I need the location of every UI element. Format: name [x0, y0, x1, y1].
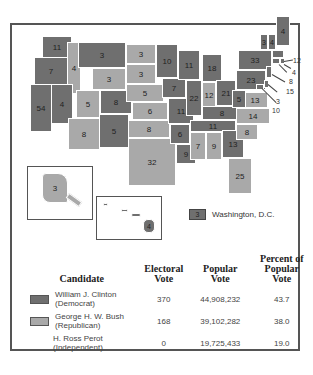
hawaii-island-maui — [131, 213, 141, 217]
callout-line-ri — [284, 64, 291, 69]
callout-line-nj — [272, 74, 285, 82]
hawaii-island-oahu — [121, 209, 128, 212]
table-row: George H. W. Bush(Republican) 168 39,102… — [26, 310, 313, 332]
state-ak: 3 — [42, 173, 68, 203]
dc-legend: 3 Washington, D.C. — [189, 209, 274, 220]
callout-ct: 8 — [289, 78, 293, 85]
electoral-cell: 370 — [138, 288, 190, 310]
state-ca: 54 — [30, 84, 52, 132]
callout-md: 10 — [272, 107, 280, 114]
popular-cell: 39,102,282 — [190, 310, 251, 332]
alaska-inset: 3 — [27, 166, 93, 220]
hawaii-island-kauai — [103, 203, 108, 206]
percent-cell: 38.0 — [251, 310, 313, 332]
table-row: William J. Clinton(Democrat) 370 44,908,… — [26, 288, 313, 310]
republican-swatch — [30, 317, 49, 326]
electoral-cell: 168 — [138, 310, 190, 332]
state-nh: 4 — [268, 34, 276, 50]
state-nm: 5 — [99, 114, 129, 148]
state-fl: 25 — [228, 158, 252, 194]
callout-line-ma — [284, 59, 293, 62]
state-al: 9 — [206, 132, 222, 160]
state-nd: 3 — [126, 44, 156, 64]
state-il: 22 — [186, 80, 202, 116]
state-ut: 5 — [76, 90, 100, 118]
table-row: H. Ross Perot(Independent) 0 19,725,433 … — [26, 332, 313, 354]
state-me: 4 — [276, 16, 290, 46]
callout-line-de — [268, 84, 278, 92]
state-in: 12 — [202, 82, 216, 108]
state-ne: 5 — [126, 84, 164, 102]
independent-swatch-empty — [30, 340, 47, 347]
state-nj — [266, 66, 272, 78]
state-wv: 5 — [232, 90, 246, 108]
state-az: 8 — [68, 118, 100, 150]
electoral-cell: 0 — [138, 332, 190, 354]
popular-cell: 19,725,433 — [190, 332, 251, 354]
democrat-swatch — [30, 295, 49, 304]
results-table: Candidate ElectoralVote PopularVote Perc… — [26, 254, 313, 354]
state-mi: 18 — [202, 54, 222, 82]
candidate-cell: William J. Clinton(Democrat) — [26, 288, 138, 310]
candidate-cell: George H. W. Bush(Republican) — [26, 310, 138, 332]
state-mn: 10 — [156, 44, 178, 78]
state-tx: 32 — [128, 138, 176, 186]
state-ok: 8 — [128, 120, 170, 138]
header-popular: PopularVote — [190, 254, 251, 288]
table-header: Candidate ElectoralVote PopularVote Perc… — [26, 254, 313, 288]
alaska-panhandle — [66, 193, 83, 207]
callout-nj: 15 — [286, 88, 294, 95]
dc-label: Washington, D.C. — [212, 210, 274, 219]
state-ia: 7 — [162, 78, 186, 98]
dc-swatch: 3 — [189, 209, 206, 220]
state-wy: 3 — [92, 68, 126, 90]
state-ma — [272, 50, 284, 58]
header-percent: Percent ofPopular Vote — [251, 254, 313, 288]
state-wi: 11 — [178, 50, 200, 80]
percent-cell: 43.7 — [251, 288, 313, 310]
candidate-cell: H. Ross Perot(Independent) — [26, 332, 138, 354]
popular-cell: 44,908,232 — [190, 288, 251, 310]
callout-ma: 12 — [293, 57, 301, 64]
callout-ri: 4 — [292, 69, 296, 76]
state-ar: 6 — [170, 124, 190, 144]
hawaii-inset: 4 — [96, 196, 162, 240]
header-candidate: Candidate — [26, 254, 138, 288]
state-ks: 6 — [132, 102, 168, 120]
state-hi: 4 — [143, 219, 155, 233]
state-sd: 3 — [126, 64, 156, 84]
header-electoral: ElectoralVote — [138, 254, 190, 288]
percent-cell: 19.0 — [251, 332, 313, 354]
state-vt: 3 — [260, 34, 268, 50]
state-or: 7 — [34, 57, 68, 85]
state-nc: 14 — [236, 108, 270, 124]
state-mt: 3 — [78, 42, 126, 68]
state-ms: 7 — [190, 132, 206, 160]
state-sc: 8 — [236, 124, 258, 140]
us-electoral-map: 11 7 54 4 4 3 3 5 8 8 5 3 3 5 6 8 32 10 … — [0, 0, 313, 240]
